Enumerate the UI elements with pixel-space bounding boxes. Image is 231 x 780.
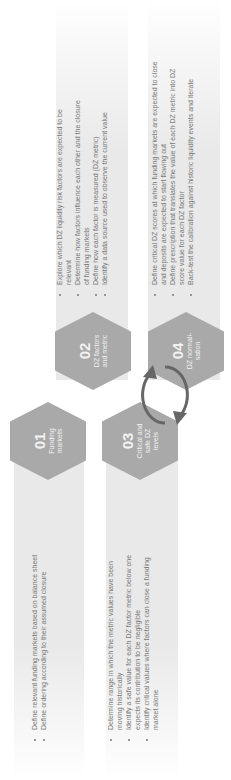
- bullet-item: Determine how factors influence each oth…: [73, 95, 91, 285]
- bullet-item: Explore which DZ liquidity risk factors …: [55, 95, 73, 285]
- bullets-step-04: Define critical DZ scores at which fundi…: [150, 55, 195, 295]
- band-step-01: [14, 440, 84, 780]
- bullet-item: Identify critical values where factors c…: [142, 540, 160, 730]
- cycle-arrows-icon: [125, 355, 205, 435]
- bullet-item: Identify a data source used to observe t…: [100, 95, 109, 285]
- bullets-step-03: Determine range in which the metric valu…: [106, 540, 160, 740]
- process-diagram: 01 Funding markets 02 DZ factors and met…: [0, 0, 231, 780]
- step-number: 01: [32, 433, 48, 450]
- bullet-item: Identify a safe value for each DZ factor…: [124, 540, 142, 730]
- bullet-item: Define relevant funding markets based on…: [30, 490, 39, 730]
- step-number: 03: [120, 433, 136, 450]
- step-number: 02: [77, 343, 93, 360]
- bullets-step-01: Define relevant funding markets based on…: [30, 490, 48, 740]
- bullet-item: Back-test the calibration against histor…: [186, 55, 195, 285]
- bullet-item: Define ordering according to their assum…: [39, 490, 48, 730]
- step-label: Funding markets: [48, 419, 64, 463]
- step-label: DZ factors and metric: [93, 329, 109, 373]
- bullet-item: Define prescription that translates the …: [168, 55, 186, 285]
- bullet-item: Define how each factor is measured (DZ m…: [91, 95, 100, 285]
- bullets-step-02: Explore which DZ liquidity risk factors …: [55, 95, 109, 295]
- bullet-item: Determine range in which the metric valu…: [106, 540, 124, 730]
- bullet-item: Define critical DZ scores at which fundi…: [150, 55, 168, 285]
